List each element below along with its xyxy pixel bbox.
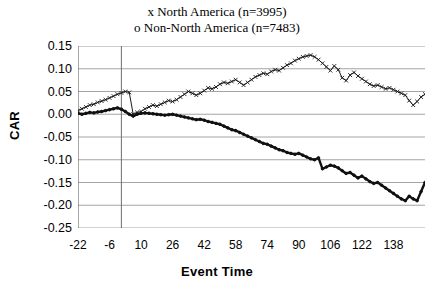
- plot-area: [78, 46, 425, 228]
- series-markers-x: [78, 53, 425, 116]
- series-markers-o: [78, 107, 425, 202]
- y-tick-label: -0.25: [24, 222, 72, 234]
- y-tick-label: 0.10: [24, 63, 72, 75]
- chart-figure: x North America (n=3995) o Non-North Ame…: [0, 0, 434, 288]
- x-axis-title: Event Time: [0, 264, 434, 279]
- y-tick-label: 0.15: [24, 40, 72, 52]
- y-tick-label: 0.05: [24, 86, 72, 98]
- y-tick-label: -0.05: [24, 131, 72, 143]
- y-tick-label: -0.10: [24, 154, 72, 166]
- series-line-o: [78, 108, 425, 201]
- y-tick-label: -0.20: [24, 199, 72, 211]
- y-tick-label: -0.15: [24, 177, 72, 189]
- x-tick-label: 138: [373, 238, 413, 252]
- y-tick-label: 0.00: [24, 108, 72, 120]
